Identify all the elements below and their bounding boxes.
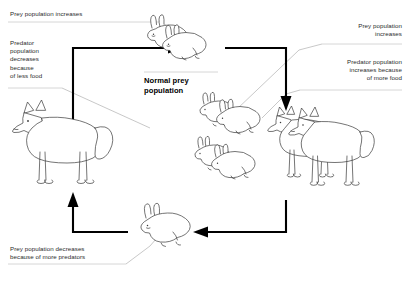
arrow-bottom-prey-to-left [68, 192, 129, 232]
rabbit-group-normal-prey [148, 15, 206, 60]
fox-group-decreased-predator [12, 100, 112, 184]
rabbit [141, 203, 190, 246]
fox [12, 100, 112, 184]
arrow-right-to-bottom-prey [193, 200, 286, 238]
label-prey-population-decreases: Prey population decreases because of mor… [10, 245, 130, 261]
label-predator-population-decreases: Predator population decreases because of… [10, 39, 66, 80]
label-prey-population-increases-right: Prey population increases [322, 22, 402, 38]
label-normal-prey-population: Normal prey population [144, 76, 234, 95]
rabbit [212, 144, 255, 179]
rabbit [217, 99, 260, 134]
arrow-normal-prey-to-increase [225, 48, 292, 111]
fox-group-increased-predator [268, 106, 375, 185]
rabbit-group-decreased-prey [141, 203, 190, 246]
rabbit-group-increased-prey [195, 92, 260, 179]
predator-prey-cycle-diagram: Prey population increases Predator popul… [0, 0, 408, 282]
fox [289, 107, 375, 185]
label-prey-population-increases-left: Prey population increases [10, 10, 160, 18]
label-predator-population-increases: Predator population increases because of… [300, 58, 402, 83]
